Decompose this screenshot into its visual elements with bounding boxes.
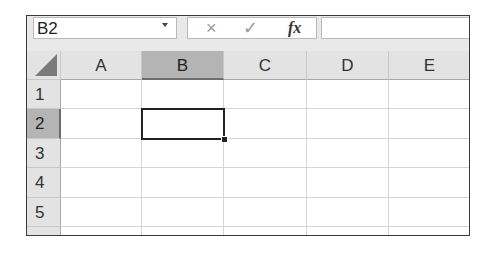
cell-c1[interactable] — [224, 80, 307, 109]
cell-d2[interactable] — [307, 109, 389, 139]
row-header-4[interactable]: 4 — [27, 168, 61, 198]
row-header-1[interactable]: 1 — [27, 80, 61, 109]
cell-e2[interactable] — [389, 109, 470, 139]
cell-c6[interactable] — [224, 227, 307, 236]
cell-d1[interactable] — [307, 80, 389, 109]
formula-bar: B2 × ✓ fx — [27, 16, 469, 51]
cell-d6[interactable] — [307, 227, 389, 236]
cancel-icon[interactable]: × — [206, 18, 217, 38]
cell-e3[interactable] — [389, 139, 470, 168]
cell-c3[interactable] — [224, 139, 307, 168]
cell-d5[interactable] — [307, 198, 389, 227]
fill-handle[interactable] — [221, 136, 228, 143]
column-header-b[interactable]: B — [142, 51, 224, 80]
column-header-e[interactable]: E — [389, 51, 470, 80]
cell-e5[interactable] — [389, 198, 470, 227]
name-box-value: B2 — [37, 19, 58, 39]
cell-e4[interactable] — [389, 168, 470, 198]
insert-function-icon[interactable]: fx — [288, 18, 301, 38]
row-header-5[interactable]: 5 — [27, 198, 61, 227]
cell-e1[interactable] — [389, 80, 470, 109]
cell-c4[interactable] — [224, 168, 307, 198]
spreadsheet-window: B2 × ✓ fx A B C D E 1 2 3 4 5 6 — [26, 15, 470, 236]
cell-e6[interactable] — [389, 227, 470, 236]
cell-a3[interactable] — [61, 139, 142, 168]
row-header-3[interactable]: 3 — [27, 139, 61, 168]
column-header-c[interactable]: C — [224, 51, 307, 80]
row-header-6[interactable]: 6 — [27, 227, 61, 236]
cell-a6[interactable] — [61, 227, 142, 236]
cell-b2[interactable] — [142, 109, 224, 139]
cell-d4[interactable] — [307, 168, 389, 198]
cell-a4[interactable] — [61, 168, 142, 198]
enter-icon[interactable]: ✓ — [243, 18, 258, 38]
formula-buttons: × ✓ fx — [187, 17, 317, 39]
cell-b3[interactable] — [142, 139, 224, 168]
cell-b6[interactable] — [142, 227, 224, 236]
select-all-button[interactable] — [27, 51, 61, 80]
chevron-down-icon[interactable] — [162, 23, 168, 27]
cell-c2[interactable] — [224, 109, 307, 139]
cell-b4[interactable] — [142, 168, 224, 198]
cell-b5[interactable] — [142, 198, 224, 227]
cell-b1[interactable] — [142, 80, 224, 109]
cell-d3[interactable] — [307, 139, 389, 168]
name-box[interactable]: B2 — [33, 17, 177, 39]
cell-a2[interactable] — [61, 109, 142, 139]
cell-c5[interactable] — [224, 198, 307, 227]
column-header-d[interactable]: D — [307, 51, 389, 80]
select-all-icon — [35, 54, 57, 76]
cell-a1[interactable] — [61, 80, 142, 109]
cell-a5[interactable] — [61, 198, 142, 227]
formula-input[interactable] — [321, 17, 470, 39]
column-header-a[interactable]: A — [61, 51, 142, 80]
row-header-2[interactable]: 2 — [27, 109, 61, 139]
